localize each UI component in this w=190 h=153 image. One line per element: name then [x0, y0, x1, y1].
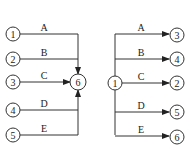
node-4: 4	[170, 52, 184, 66]
node-1: 1	[6, 27, 20, 41]
node-5: 5	[170, 105, 184, 119]
edge-5-6-E	[20, 90, 78, 135]
edge-label: E	[138, 124, 144, 135]
svg-text:6: 6	[175, 132, 180, 143]
edge-label: D	[40, 98, 47, 109]
edge-label: E	[41, 123, 47, 134]
node-5: 5	[6, 128, 20, 142]
svg-text:3: 3	[175, 30, 180, 41]
edge-label: B	[41, 47, 48, 58]
node-6: 6	[70, 74, 86, 90]
edge-label: C	[138, 71, 145, 82]
node-2: 2	[170, 76, 184, 90]
svg-text:1: 1	[113, 78, 118, 89]
node-2: 2	[6, 52, 20, 66]
edge-label: B	[138, 47, 145, 58]
node-6: 6	[170, 130, 184, 144]
svg-text:5: 5	[175, 107, 180, 118]
node-1: 1	[108, 76, 122, 90]
burst-diagram: A B C D E 1 3 4 2 5 6	[108, 22, 184, 144]
edge-label: D	[137, 100, 144, 111]
merge-diagram: A B C D E 1 2 3 4 5 6	[6, 22, 86, 142]
node-4: 4	[6, 103, 20, 117]
svg-text:4: 4	[175, 54, 180, 65]
edge-label: A	[40, 22, 48, 33]
svg-text:5: 5	[11, 130, 16, 141]
svg-text:3: 3	[11, 77, 16, 88]
svg-text:2: 2	[11, 54, 16, 65]
edge-label: A	[137, 22, 145, 33]
edge-label: C	[41, 70, 48, 81]
node-3: 3	[6, 75, 20, 89]
edge-1-6-A	[20, 34, 78, 74]
diagram-canvas: A B C D E 1 2 3 4 5 6 A B C D E 1 3 4 2 …	[0, 0, 190, 153]
svg-text:4: 4	[11, 105, 16, 116]
svg-text:6: 6	[76, 77, 81, 88]
svg-text:1: 1	[11, 29, 16, 40]
svg-text:2: 2	[175, 78, 180, 89]
node-3: 3	[170, 28, 184, 42]
